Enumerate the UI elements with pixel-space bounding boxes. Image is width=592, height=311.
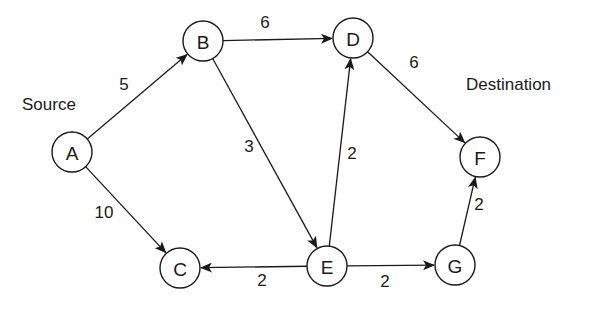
edge-weight-label: 6 [409,53,418,72]
edge-a-c: 10 [86,167,166,253]
node-a: A [52,132,92,172]
node-label: F [474,148,486,169]
arrow-icon [347,265,434,266]
node-label: D [346,29,360,50]
edge-weight-label: 2 [347,144,356,163]
edges-layer: 5106326222 [86,13,484,291]
node-d: D [333,18,373,58]
node-label: B [197,32,210,53]
edge-b-d: 6 [223,13,332,41]
node-label: E [321,257,334,278]
source-annotation: Source [22,95,76,114]
graph-diagram: 5106326222 ABCDEFG Source Destination [0,0,592,311]
arrow-icon [223,38,332,40]
nodes-layer: ABCDEFG [52,18,500,288]
edge-weight-label: 5 [119,75,128,94]
edge-weight-label: 6 [260,13,269,32]
annotations-layer: Source Destination [22,75,551,114]
node-g: G [435,245,475,285]
edge-e-g: 2 [347,265,434,290]
edge-b-e: 3 [213,59,317,248]
arrow-icon [213,59,317,248]
node-f: F [460,137,500,177]
edge-weight-label: 10 [95,203,114,222]
edge-d-f: 6 [368,52,465,143]
edge-a-b: 5 [87,55,187,139]
node-c: C [160,248,200,288]
node-label: G [448,256,463,277]
edge-weight-label: 3 [244,137,253,156]
edge-weight-label: 2 [257,271,266,290]
node-label: A [66,143,79,164]
node-e: E [307,246,347,286]
node-b: B [183,21,223,61]
arrow-icon [460,177,476,245]
edge-g-f: 2 [460,177,484,245]
edge-weight-label: 2 [474,195,483,214]
node-label: C [173,259,187,280]
edge-e-c: 2 [201,266,307,289]
edge-e-d: 2 [329,59,356,246]
destination-annotation: Destination [466,75,551,94]
arrow-icon [87,55,187,139]
arrow-icon [201,266,307,267]
edge-weight-label: 2 [380,272,389,291]
